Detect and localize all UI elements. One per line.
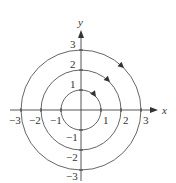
y-tick-label: 2 [70, 58, 76, 70]
x-axis-label: x [161, 104, 167, 116]
clockwise-arrow-icon [90, 90, 98, 98]
x-tick-label: −2 [29, 114, 41, 126]
x-axis-arrow-icon [150, 107, 158, 113]
x-tick-label: −3 [9, 114, 21, 126]
y-tick-label: 1 [70, 78, 76, 90]
x-tick-label: 1 [103, 114, 109, 126]
y-tick-label: −1 [66, 131, 78, 143]
phase-portrait-diagram: x y −3 −2 −1 1 2 3 3 2 1 −1 −2 −3 [0, 0, 176, 183]
x-tick-label: −1 [50, 114, 62, 126]
y-tick-label: 3 [70, 38, 76, 50]
y-axis-label: y [77, 16, 83, 28]
y-tick-label: −2 [66, 151, 78, 163]
y-axis-arrow-icon [78, 30, 84, 38]
y-tick-label: −3 [66, 170, 78, 182]
x-tick-label: 3 [143, 114, 149, 126]
x-tick-label: 2 [123, 114, 129, 126]
